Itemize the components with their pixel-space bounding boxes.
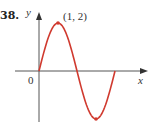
peak-point bbox=[56, 21, 60, 25]
y-axis-arrow-icon bbox=[36, 12, 42, 20]
origin-label: 0 bbox=[28, 74, 34, 86]
x-axis-label: x bbox=[138, 74, 143, 86]
point-label: (1, 2) bbox=[63, 10, 87, 22]
y-axis-label: y bbox=[26, 6, 31, 18]
trough-point bbox=[94, 117, 98, 121]
figure: 38. y x 0 (1, 2) bbox=[0, 0, 153, 128]
